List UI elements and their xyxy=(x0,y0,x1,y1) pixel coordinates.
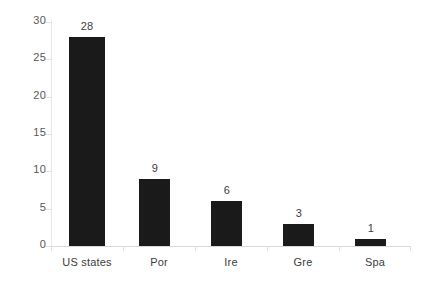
x-tick-mark xyxy=(339,246,340,251)
category-label-por: Por xyxy=(124,256,194,268)
bar-us-states[interactable] xyxy=(69,37,105,246)
bar-spa[interactable] xyxy=(355,239,386,247)
x-axis-line xyxy=(51,246,410,247)
y-axis-line xyxy=(51,20,52,247)
y-tick-label: 25 xyxy=(33,51,46,63)
category-label-gre: Gre xyxy=(268,256,338,268)
bar-value-us-states: 28 xyxy=(69,20,105,32)
bar-gre[interactable] xyxy=(283,224,314,246)
x-tick-mark xyxy=(410,246,411,251)
x-tick-mark xyxy=(195,246,196,251)
bar-value-spa: 1 xyxy=(353,222,389,234)
category-label-ire: Ire xyxy=(196,256,266,268)
x-tick-mark xyxy=(267,246,268,251)
y-tick-label: 20 xyxy=(33,89,46,101)
bar-ire[interactable] xyxy=(211,201,242,246)
bar-por[interactable] xyxy=(139,179,170,246)
y-tick-label: 30 xyxy=(33,14,46,26)
y-tick-label: 15 xyxy=(33,126,46,138)
category-label-us-states: US states xyxy=(52,256,122,268)
bar-chart: 0 5 10 15 20 25 30 28 US states 9 Por 6 … xyxy=(0,0,427,284)
x-tick-mark xyxy=(123,246,124,251)
y-tick-label: 5 xyxy=(40,201,46,213)
bar-value-gre: 3 xyxy=(281,207,317,219)
x-tick-mark xyxy=(51,246,52,251)
bar-value-por: 9 xyxy=(137,162,173,174)
bar-value-ire: 6 xyxy=(209,184,245,196)
category-label-spa: Spa xyxy=(340,256,410,268)
y-tick-label: 0 xyxy=(40,238,46,250)
y-tick-label: 10 xyxy=(33,163,46,175)
